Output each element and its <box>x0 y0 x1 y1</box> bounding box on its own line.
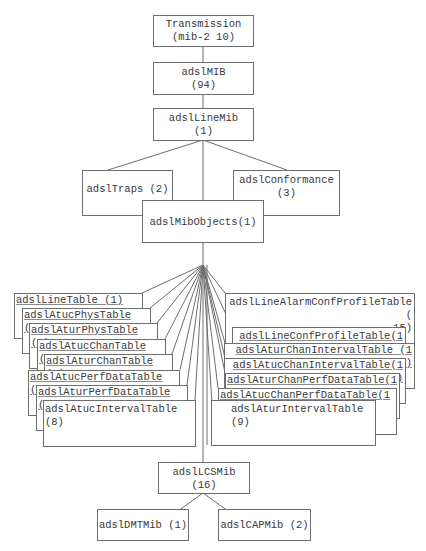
node-label: Transmission (mib-2 10) <box>154 18 253 44</box>
node-adslcapmib: adslCAPMib (2) <box>218 509 311 541</box>
table-adslaturintervaltable: adslAturIntervalTable(9) <box>211 400 376 446</box>
table-label: adslAturIntervalTable(9) <box>230 403 375 429</box>
node-label: adslConformance (3) <box>234 174 339 200</box>
node-adslmib: adslMIB (94) <box>153 62 254 95</box>
node-label: adslLCSMib (16) <box>159 466 249 492</box>
node-adsldmtmib: adslDMTMib (1) <box>97 509 189 541</box>
node-label: adslCAPMib (2) <box>219 519 310 532</box>
table-adslatucintervaltable: adslAtucIntervalTable(8) <box>43 400 196 447</box>
table-label: adslAtucIntervalTable(8) <box>44 403 195 429</box>
node-transmission: Transmission (mib-2 10) <box>153 15 254 47</box>
mib-tree-diagram: Transmission (mib-2 10) adslMIB (94) ads… <box>0 0 426 551</box>
table-label: adslLineTable (1) <box>15 294 142 307</box>
node-adsllinemib: adslLineMib (1) <box>153 108 254 141</box>
node-adsllcsmib: adslLCSMib (16) <box>158 462 250 494</box>
node-label: adslMibObjects(1) <box>143 216 263 229</box>
node-adslmibobjects: adslMibObjects(1) <box>142 200 264 243</box>
node-label: adslLineMib (1) <box>154 112 253 138</box>
node-label: adslTraps (2) <box>83 183 172 196</box>
node-label: adslDMTMib (1) <box>98 519 188 532</box>
node-label: adslMIB (94) <box>154 66 253 92</box>
